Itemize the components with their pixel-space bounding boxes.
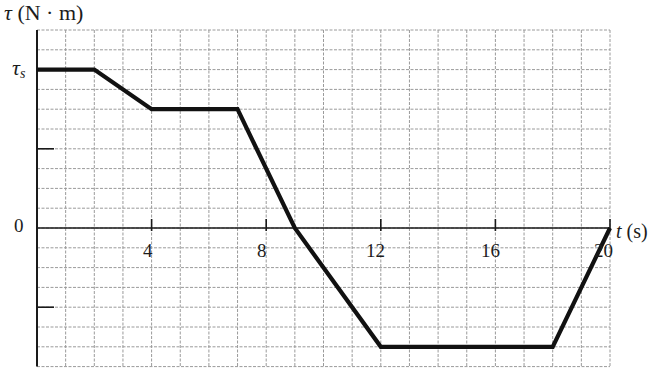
y-axis-symbol: τ [4,0,12,25]
x-tick-label-8: 8 [257,240,267,262]
x-tick-label-20: 20 [594,240,613,262]
tau-s-label: τs [12,55,25,82]
x-tick-label-4: 4 [143,240,153,262]
x-tick-label-16: 16 [481,240,500,262]
y-axis-label: τ (N · m) [4,0,83,26]
tau-s-subscript: s [20,66,25,81]
y-axis-unit: (N · m) [12,0,83,25]
x-axis-label: t (s) [616,220,648,243]
x-axis-unit: (s) [622,220,648,242]
y-zero-label: 0 [14,215,24,237]
x-tick-label-12: 12 [366,240,385,262]
tau-s-symbol: τ [12,55,20,80]
grid [37,30,610,367]
torque-chart [0,0,651,379]
